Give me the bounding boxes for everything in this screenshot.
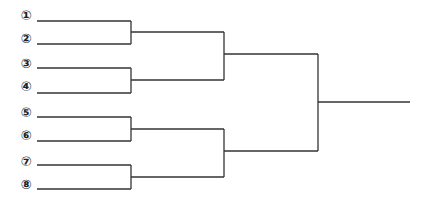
- seed-8-label: ⑧: [19, 178, 33, 192]
- semifinal-2-lines: [224, 129, 318, 177]
- seed-5-label: ⑤: [19, 106, 33, 120]
- match-4-lines: [37, 165, 224, 189]
- final-lines: [318, 54, 410, 151]
- seed-2-label: ②: [19, 32, 33, 46]
- seed-6-label: ⑥: [19, 129, 33, 143]
- match-3-lines: [37, 117, 224, 141]
- match-2-lines: [37, 68, 224, 93]
- tournament-bracket: ① ② ③ ④ ⑤ ⑥ ⑦ ⑧: [0, 0, 427, 200]
- seed-3-label: ③: [19, 57, 33, 71]
- semifinal-1-lines: [224, 32, 318, 80]
- seed-4-label: ④: [19, 80, 33, 94]
- match-1-lines: [37, 21, 224, 44]
- bracket-lines: [0, 0, 427, 200]
- seed-7-label: ⑦: [19, 155, 33, 169]
- seed-1-label: ①: [19, 9, 33, 23]
